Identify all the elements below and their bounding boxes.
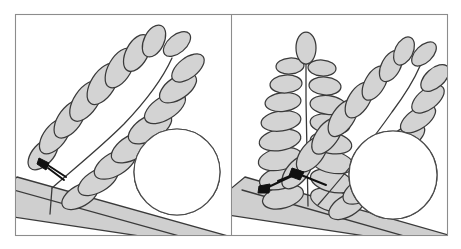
inset-left-ring bbox=[134, 129, 220, 215]
figure-root bbox=[0, 0, 461, 249]
terminal-leaflet bbox=[296, 32, 316, 64]
thorn-base-a bbox=[258, 184, 270, 193]
inset-right-ring bbox=[349, 131, 437, 219]
botanical-figure-svg bbox=[0, 0, 461, 249]
